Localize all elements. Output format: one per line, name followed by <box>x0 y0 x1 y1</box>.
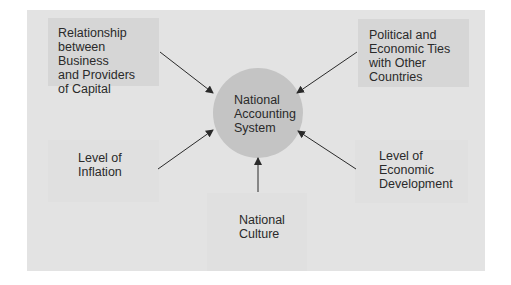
arrow-inflation-to-center <box>158 130 213 169</box>
arrow-political-ties-to-center <box>297 52 357 93</box>
arrow-economic-development-to-center <box>298 131 356 169</box>
arrow-business-capital-to-center <box>160 52 213 93</box>
arrows-layer <box>0 0 511 285</box>
